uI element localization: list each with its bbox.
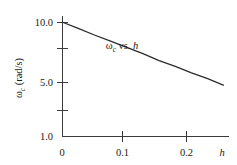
annotation-h-variable: h	[133, 40, 138, 51]
x-tick-label-0.1: 0.1	[116, 147, 129, 158]
y-tick-label-1: 1.0	[40, 131, 53, 142]
y-tick-label-10: 10.0	[35, 17, 53, 28]
y-tick-label-5: 5.0	[40, 77, 53, 88]
x-tick-label-0: 0	[59, 147, 64, 158]
x-tick-label-0.2: 0.2	[180, 147, 193, 158]
chart-figure: 10.0 5.0 1.0 0 0.1 0.2 h ωc (rad/s) ωc v…	[0, 0, 237, 165]
annotation-vs-text: vs.	[116, 40, 133, 51]
omega-c-vs-h-chart: 10.0 5.0 1.0 0 0.1 0.2 h ωc (rad/s) ωc v…	[0, 0, 237, 165]
x-axis-label: h	[219, 147, 224, 158]
y-axis-unit-text: (rad/s)	[13, 57, 25, 85]
